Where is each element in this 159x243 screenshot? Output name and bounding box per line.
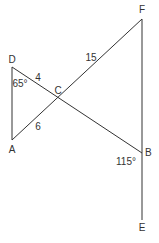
point-label-D: D	[8, 54, 15, 65]
point-label-C: C	[54, 85, 61, 96]
point-label-A: A	[9, 144, 16, 155]
point-label-B: B	[145, 147, 152, 158]
angle-D: 65°	[12, 78, 27, 89]
length-AC: 6	[35, 121, 41, 132]
angle-B: 115°	[116, 156, 136, 167]
length-DC: 4	[35, 72, 41, 83]
point-label-E: E	[139, 222, 146, 233]
point-label-F: F	[139, 4, 145, 15]
geometry-diagram: F D C A B E 4 65° 15 6 115°	[0, 0, 159, 243]
length-CF: 15	[85, 52, 97, 63]
